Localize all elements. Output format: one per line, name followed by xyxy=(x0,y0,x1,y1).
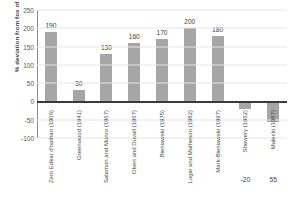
x-label-slot: Shewery (1962)-20 xyxy=(231,100,259,217)
x-axis-label: Malecki (1987) xyxy=(270,110,276,149)
x-label-slot: Obert and Duvall (1967) xyxy=(120,100,148,217)
y-tick-label: 100 xyxy=(12,61,34,68)
gridline xyxy=(37,10,287,11)
x-label-slot: Mark-Bieniawski (1997) xyxy=(204,100,232,217)
bar-chart: % deviation from fos of 1.0 250200150100… xyxy=(0,0,293,217)
bar[interactable] xyxy=(128,43,140,102)
y-tick-label: -100 xyxy=(12,135,34,142)
y-tick-label: 250 xyxy=(12,7,34,14)
gridline xyxy=(37,83,287,84)
x-label-slot: Greenwood (1941) xyxy=(65,100,93,217)
x-axis-label: Zern Edkar d'nathan (1906) xyxy=(48,110,54,183)
x-label-slot: Logie and Matheson (1982) xyxy=(176,100,204,217)
y-tick-label: 200 xyxy=(12,25,34,32)
x-label-slot: Salamon and Munro (1967) xyxy=(93,100,121,217)
x-axis-label: Logie and Matheson (1982) xyxy=(187,110,193,183)
bar[interactable] xyxy=(45,32,57,101)
bar-value-label: 200 xyxy=(184,18,195,25)
gridline xyxy=(37,64,287,65)
x-axis-label: Mark-Bieniawski (1997) xyxy=(215,110,221,173)
gridline xyxy=(37,46,287,47)
x-label-slot: Malecki (1987)55 xyxy=(259,100,287,217)
y-tick-label: 0 xyxy=(12,98,34,105)
bar-value-label: 180 xyxy=(212,26,223,33)
x-axis-label: Greenwood (1941) xyxy=(76,110,82,160)
bar[interactable] xyxy=(156,39,168,101)
x-axis-label: Salamon and Munro (1967) xyxy=(103,110,109,183)
y-tick-label: -50 xyxy=(12,116,34,123)
x-label-slot: Zern Edkar d'nathan (1906) xyxy=(37,100,65,217)
x-axis-category-labels: Zern Edkar d'nathan (1906)Greenwood (194… xyxy=(37,100,287,217)
y-tick-label: 150 xyxy=(12,43,34,50)
bar-value-label: 160 xyxy=(129,33,140,40)
bar-value-label: -20 xyxy=(241,176,251,183)
x-axis-label: Shewery (1962) xyxy=(242,110,248,152)
bar-value-label: 170 xyxy=(157,29,168,36)
bar-value-label: 130 xyxy=(101,44,112,51)
x-axis-label: Bieniawski (1975) xyxy=(159,110,165,157)
y-tick-label: 50 xyxy=(12,80,34,87)
x-axis-label: Obert and Duvall (1967) xyxy=(131,110,137,174)
x-label-slot: Bieniawski (1975) xyxy=(148,100,176,217)
bar-value-label: 30 xyxy=(75,80,82,87)
y-axis-tick-labels: 250200150100500-50-100 xyxy=(12,10,34,138)
gridline xyxy=(37,28,287,29)
bar[interactable] xyxy=(100,54,112,102)
bar-value-label: 55 xyxy=(269,176,276,183)
